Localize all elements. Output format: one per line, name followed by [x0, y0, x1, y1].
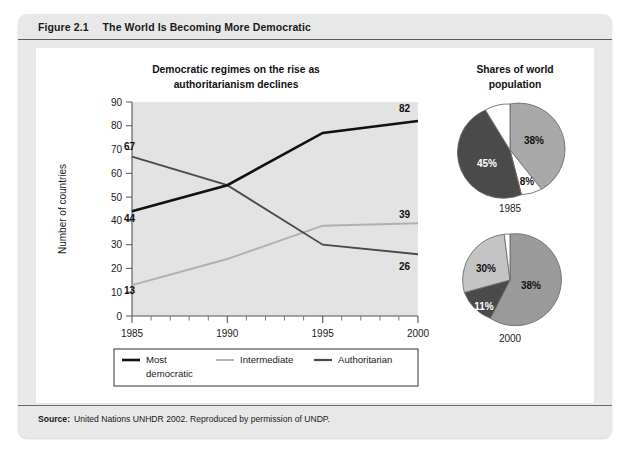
pie-2000-label-11: 11% — [474, 301, 494, 312]
line-chart-svg: 90 80 70 60 50 40 30 20 10 0 Number of c… — [36, 94, 436, 394]
legend-label-intermediate: Intermediate — [240, 354, 293, 365]
y-tick-60: 60 — [111, 168, 123, 179]
y-tick-50: 50 — [111, 192, 123, 203]
x-tick-1985: 1985 — [121, 328, 144, 339]
legend: Most democratic Intermediate Authoritari… — [114, 349, 418, 386]
x-axis-tick-labels: 1985 1990 1995 2000 — [121, 328, 430, 339]
pie-1985-slices — [457, 103, 565, 198]
y-tick-30: 30 — [111, 239, 123, 250]
plot-area-background — [132, 102, 418, 316]
figure-panel: Figure 2.1 The World Is Becoming More De… — [18, 14, 612, 438]
legend-label-most-democratic-line1: Most — [146, 354, 167, 365]
label-intermediate-end: 39 — [399, 209, 411, 220]
y-tick-10: 10 — [111, 287, 123, 298]
figure-content-card: Democratic regimes on the rise as author… — [36, 48, 594, 403]
line-chart-title-line2: authoritarianism declines — [36, 77, 436, 92]
line-chart-title: Democratic regimes on the rise as author… — [36, 62, 436, 92]
figure-number: Figure 2.1 — [38, 21, 89, 33]
label-most-democratic-end: 82 — [399, 103, 411, 114]
pie-section-title: Shares of world population — [436, 62, 594, 92]
y-tick-0: 0 — [116, 311, 122, 322]
y-tick-20: 20 — [111, 263, 123, 274]
y-axis-tick-labels: 90 80 70 60 50 40 30 20 10 0 — [111, 97, 123, 322]
legend-label-authoritarian: Authoritarian — [338, 354, 392, 365]
y-tick-40: 40 — [111, 215, 123, 226]
x-tick-2000: 2000 — [407, 328, 430, 339]
pie-chart-1985: 38% 8% 45% 1985 — [446, 96, 584, 218]
label-intermediate-start: 13 — [124, 285, 136, 296]
source-label: Source: — [38, 414, 70, 424]
pie-1985-year-label: 1985 — [499, 203, 522, 214]
pie-2000-year-label: 2000 — [499, 333, 522, 344]
x-tick-1995: 1995 — [312, 328, 335, 339]
y-tick-80: 80 — [111, 120, 123, 131]
y-axis-ticks — [126, 102, 132, 316]
pie-2000-label-30: 30% — [476, 263, 496, 274]
pie-1985-label-8: 8% — [520, 176, 535, 187]
y-tick-70: 70 — [111, 144, 123, 155]
pie-chart-2000: 38% 11% 30% 2000 — [446, 226, 584, 348]
y-axis-label: Number of countries — [57, 164, 68, 254]
source-text: United Nations UNHDR 2002. Reproduced by… — [74, 414, 330, 424]
label-most-democratic-start: 44 — [124, 213, 136, 224]
source-row: Source: United Nations UNHDR 2002. Repro… — [18, 405, 612, 432]
line-chart-title-line1: Democratic regimes on the rise as — [36, 62, 436, 77]
pie-section-title-line2: population — [436, 77, 594, 92]
figure-title: The World Is Becoming More Democratic — [103, 21, 311, 33]
y-tick-90: 90 — [111, 97, 123, 108]
pie-2000-label-57: 38% — [521, 280, 541, 291]
label-authoritarian-start: 67 — [124, 141, 136, 152]
pie-1985-label-38: 38% — [524, 135, 544, 146]
pie-section-title-line1: Shares of world — [436, 62, 594, 77]
pie-chart-region: Shares of world population 38% 8% — [436, 48, 594, 403]
x-tick-1990: 1990 — [216, 328, 239, 339]
figure-header: Figure 2.1 The World Is Becoming More De… — [18, 14, 612, 40]
x-axis-ticks — [132, 316, 418, 323]
label-authoritarian-end: 26 — [399, 261, 411, 272]
legend-label-most-democratic-line2: democratic — [146, 368, 193, 379]
pie-1985-label-45: 45% — [477, 158, 497, 169]
line-chart-region: Democratic regimes on the rise as author… — [36, 48, 436, 403]
